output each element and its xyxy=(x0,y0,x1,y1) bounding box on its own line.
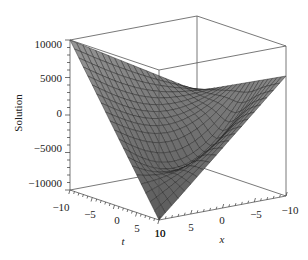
z-tick-label: −5000 xyxy=(34,142,63,154)
surface-mesh xyxy=(70,40,286,220)
t-tick-label: 0 xyxy=(114,214,120,226)
x-tick-label: 10 xyxy=(155,227,167,239)
t-axis-title: t xyxy=(121,235,125,247)
z-tick-label: 5000 xyxy=(40,72,63,84)
x-axis-title: x xyxy=(219,233,225,245)
z-axis: 10000 5000 0 −5000 −10000 Solution xyxy=(12,38,70,190)
z-tick-label: 10000 xyxy=(35,38,63,50)
x-tick-label: −10 xyxy=(281,204,299,216)
t-tick-label: 5 xyxy=(134,222,140,234)
z-tick-label: −10000 xyxy=(28,177,62,189)
t-tick-label: −5 xyxy=(84,208,96,220)
x-tick-label: 5 xyxy=(188,221,194,233)
surface-plot: 10000 5000 0 −5000 −10000 Solution −10 −… xyxy=(0,0,308,260)
t-tick-label: −10 xyxy=(52,201,70,213)
z-axis-title: Solution xyxy=(12,94,24,132)
x-tick-label: 0 xyxy=(219,214,225,226)
z-tick-label: 0 xyxy=(57,107,63,119)
x-tick-label: −5 xyxy=(250,208,262,220)
